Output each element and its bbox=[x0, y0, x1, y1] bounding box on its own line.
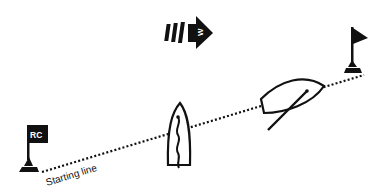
starting-line-label: Starting line bbox=[44, 162, 98, 188]
boat-upright-icon bbox=[168, 103, 190, 168]
wind-letter: W bbox=[196, 28, 205, 36]
wind-arrow-icon: W bbox=[164, 16, 213, 49]
committee-boat-flag: RC bbox=[19, 125, 48, 172]
pin-end-flag bbox=[344, 27, 368, 73]
boat-angled-icon bbox=[261, 79, 324, 130]
rc-flag-label: RC bbox=[30, 130, 42, 140]
race-start-diagram: W RC Starting line bbox=[0, 0, 388, 189]
